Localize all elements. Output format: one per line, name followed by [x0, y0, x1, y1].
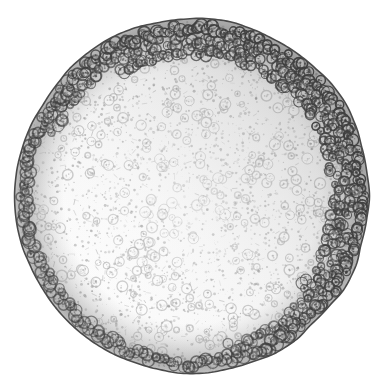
blastoderm-cell	[217, 52, 224, 59]
blastoderm-cell	[316, 255, 323, 262]
blastoderm-cell	[156, 36, 163, 43]
blastoderm-cell	[328, 153, 336, 161]
blastoderm-cell	[343, 268, 350, 275]
blastoderm-cell	[336, 209, 342, 215]
blastoderm-cell	[298, 301, 306, 309]
embryo-sphere	[15, 18, 370, 373]
blastoderm-cell	[313, 267, 320, 274]
blastoderm-cell	[246, 61, 256, 71]
blastoderm-cell	[335, 186, 342, 193]
blastoderm-cell	[325, 166, 336, 177]
figure-canvas: Spherical cellular embryo (blastula) who…	[0, 0, 385, 388]
blastoderm-cell	[324, 126, 331, 133]
blastoderm-cell	[305, 110, 314, 119]
blastoderm-cell	[25, 197, 32, 205]
blastoderm-cell	[344, 211, 352, 219]
blastoderm-cell	[304, 295, 311, 302]
spherical-embryo-figure: Spherical cellular embryo (blastula) who…	[0, 0, 385, 388]
blastoderm-cell	[345, 188, 352, 195]
blastoderm-cell	[285, 50, 292, 57]
blastoderm-cell	[223, 339, 233, 349]
blastoderm-cell	[179, 364, 187, 372]
